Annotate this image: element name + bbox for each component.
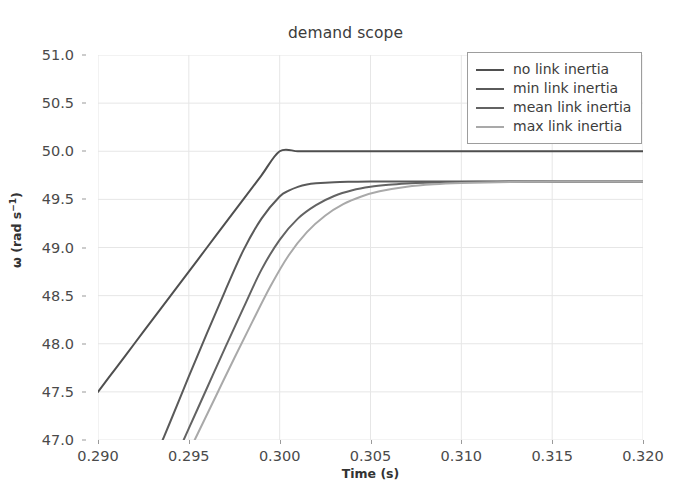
chart-title: demand scope: [0, 24, 691, 42]
x-axis-tick-label: 0.290: [77, 448, 119, 464]
y-axis-tick-mark: [82, 55, 86, 56]
y-axis-label-base: ω (rad s: [9, 212, 24, 268]
legend-line-swatch: [476, 126, 504, 128]
legend-entry[interactable]: mean link inertia: [476, 98, 631, 117]
y-axis-tick-mark: [82, 103, 86, 104]
legend-entry[interactable]: max link inertia: [476, 117, 631, 136]
x-axis-tick-label: 0.320: [622, 448, 664, 464]
x-axis-tick-mark: [280, 440, 281, 444]
series-line: [171, 181, 643, 440]
x-axis-tick-mark: [371, 440, 372, 444]
x-axis-tick-mark: [643, 440, 644, 444]
x-axis-tick-label: 0.300: [259, 448, 301, 464]
y-axis-tick-label: 50.0: [42, 143, 74, 159]
legend-entry[interactable]: no link inertia: [476, 60, 631, 79]
legend-line-swatch: [476, 69, 504, 71]
y-axis-tick-label: 47.0: [42, 432, 74, 448]
series-line: [98, 149, 643, 391]
y-axis-tick-label: 48.0: [42, 336, 74, 352]
y-axis-label-tail: ): [9, 192, 24, 198]
legend-entry[interactable]: min link inertia: [476, 79, 631, 98]
legend-line-swatch: [476, 107, 504, 109]
y-axis-tick-label: 50.5: [42, 95, 74, 111]
legend-label: max link inertia: [513, 117, 622, 136]
y-axis-tick-mark: [82, 151, 86, 152]
y-axis-tick-label: 47.5: [42, 384, 74, 400]
x-axis-tick-mark: [189, 440, 190, 444]
legend-label: no link inertia: [513, 60, 609, 79]
y-axis-tick-mark: [82, 440, 86, 441]
legend-label: mean link inertia: [513, 98, 631, 117]
x-axis-tick-label: 0.305: [350, 448, 392, 464]
x-axis-tick-label: 0.310: [441, 448, 483, 464]
y-axis-tick-label: 48.5: [42, 288, 74, 304]
y-axis-tick-mark: [82, 199, 86, 200]
legend-line-swatch: [476, 88, 504, 90]
y-axis-label-exponent: −1: [8, 198, 18, 212]
y-axis-tick-mark: [82, 295, 86, 296]
y-axis-tick-mark: [82, 391, 86, 392]
chart-legend[interactable]: no link inertiamin link inertiamean link…: [467, 52, 642, 144]
legend-label: min link inertia: [513, 79, 618, 98]
y-axis-tick-label: 49.0: [42, 240, 74, 256]
y-axis-tick-mark: [82, 247, 86, 248]
x-axis-tick-label: 0.295: [168, 448, 210, 464]
x-axis-label: Time (s): [98, 466, 643, 481]
y-axis-tick-label: 49.5: [42, 191, 74, 207]
y-axis-tick-label: 51.0: [42, 47, 74, 63]
series-line: [153, 181, 644, 440]
x-axis-tick-mark: [461, 440, 462, 444]
y-axis-label: ω (rad s−1): [8, 170, 24, 290]
x-axis-tick-mark: [98, 440, 99, 444]
x-axis-tick-label: 0.315: [531, 448, 573, 464]
chart-figure: demand scope 47.047.548.048.549.049.550.…: [0, 0, 691, 500]
y-axis-tick-mark: [82, 343, 86, 344]
x-axis-tick-mark: [552, 440, 553, 444]
series-line: [180, 181, 643, 440]
